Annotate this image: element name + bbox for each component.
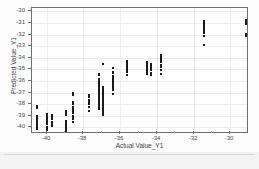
y-tick-mark <box>28 45 31 46</box>
gridline-horizontal <box>32 81 247 82</box>
x-tick-label: -40 <box>36 135 56 141</box>
gridline-horizontal <box>32 116 247 117</box>
x-tick-label: -34 <box>146 135 166 141</box>
gridline-vertical <box>157 8 158 132</box>
y-axis-title: Predicted Value_Y1 <box>10 21 17 111</box>
scatter-point <box>36 128 38 130</box>
scatter-point <box>160 69 162 71</box>
scatter-point <box>51 125 53 127</box>
gridline-vertical <box>120 8 121 132</box>
scatter-point <box>72 94 74 96</box>
scatter-point <box>102 63 104 65</box>
y-tick-mark <box>28 92 31 93</box>
scatter-point <box>88 110 90 112</box>
x-tick-label: -30 <box>219 135 239 141</box>
y-tick-label: -40 <box>9 123 25 129</box>
y-tick-mark <box>28 115 31 116</box>
scatter-point <box>65 114 67 116</box>
gridline-horizontal <box>32 23 247 24</box>
x-tick-label: -38 <box>72 135 92 141</box>
scatter-point <box>245 23 247 25</box>
scatter-point <box>112 89 114 91</box>
gridline-horizontal <box>32 58 247 59</box>
y-tick-mark <box>28 126 31 127</box>
y-tick-mark <box>28 80 31 81</box>
x-tick-mark-minor <box>174 131 175 133</box>
x-tick-mark <box>82 131 83 134</box>
gridline-vertical <box>194 8 195 132</box>
x-tick-mark-minor <box>211 131 212 133</box>
scatter-point <box>146 73 148 75</box>
y-tick-mark <box>28 22 31 23</box>
scatter-point <box>36 107 38 109</box>
scatter-point <box>245 35 247 37</box>
gridline-horizontal <box>32 11 247 12</box>
x-tick-mark <box>156 131 157 134</box>
x-tick-mark <box>119 131 120 134</box>
scatter-point <box>203 44 205 46</box>
x-tick-mark-minor <box>101 131 102 133</box>
x-tick-mark <box>46 131 47 134</box>
scatter-point <box>203 35 205 37</box>
scatter-point <box>88 106 90 108</box>
scatter-point <box>98 74 100 76</box>
gridline-vertical <box>230 8 231 132</box>
scatter-point <box>112 93 114 95</box>
gridline-vertical <box>83 8 84 132</box>
x-tick-mark-minor <box>138 131 139 133</box>
y-tick-mark <box>28 103 31 104</box>
y-tick-mark <box>28 10 31 11</box>
gridline-horizontal <box>32 69 247 70</box>
scatter-point <box>102 114 104 116</box>
x-axis-title: Actual Value_Y1 <box>31 142 248 149</box>
y-tick-mark <box>28 57 31 58</box>
y-tick-mark <box>28 34 31 35</box>
plot-area <box>31 7 248 133</box>
chart-page: -40-38-36-34-32-30 -30-31-32-33-34-35-36… <box>0 0 259 169</box>
scatter-point <box>65 130 67 132</box>
scatter-point <box>98 108 100 110</box>
y-tick-label: -39 <box>9 112 25 118</box>
scatter-point <box>160 66 162 68</box>
gridline-horizontal <box>32 104 247 105</box>
x-tick-mark-minor <box>64 131 65 133</box>
y-tick-mark <box>28 68 31 69</box>
scatter-point <box>72 121 74 123</box>
scatter-point <box>150 74 152 76</box>
gridline-horizontal <box>32 46 247 47</box>
scatter-point <box>112 67 114 69</box>
gridline-horizontal <box>32 35 247 36</box>
x-tick-mark <box>193 131 194 134</box>
figure-footer-band <box>0 155 259 169</box>
x-tick-label: -36 <box>109 135 129 141</box>
gridline-horizontal <box>32 93 247 94</box>
scatter-point <box>126 74 128 76</box>
scatter-point <box>160 73 162 75</box>
x-tick-label: -32 <box>183 135 203 141</box>
x-tick-mark <box>229 131 230 134</box>
y-tick-label: -30 <box>9 7 25 13</box>
